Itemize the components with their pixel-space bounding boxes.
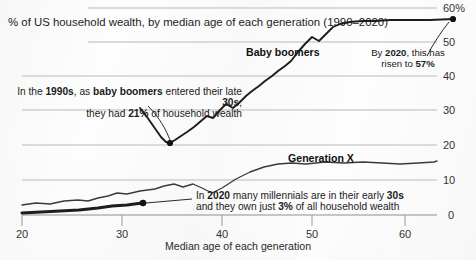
- series-line-millennials: [22, 203, 142, 213]
- annotation-bold: 1990s: [45, 86, 73, 97]
- y-tick-label-10: 10: [443, 174, 455, 188]
- annotation-bold: 30s: [387, 190, 404, 201]
- annotation-text: and they own just: [196, 201, 278, 212]
- annotation-text: entered their late: [163, 86, 242, 97]
- leader-line-millennials: [146, 199, 192, 203]
- marker-millennials-2020: [140, 200, 147, 207]
- y-tick-label-20: 20: [443, 139, 455, 153]
- series-label-baby-boomers: Baby boomers: [246, 46, 320, 58]
- annotation-millennials-2020: In 2020 many millennials are in their ea…: [196, 190, 426, 212]
- annotation-text: they had: [86, 108, 128, 119]
- series-line-baby-boomers: [140, 19, 453, 143]
- chart-canvas: [0, 0, 476, 260]
- annotation-text: , this has: [406, 47, 444, 58]
- annotation-bold: 3%: [278, 201, 293, 212]
- annotation-bold: 2020: [207, 190, 230, 201]
- annotation-bold: 2020: [385, 47, 406, 58]
- y-tick-label-60: 60%: [443, 2, 465, 16]
- annotation-text: In: [196, 190, 207, 201]
- annotation-text: of all household wealth: [293, 201, 399, 212]
- marker-boomers-1990s: [167, 140, 173, 146]
- series-label-generation-x: Generation X: [288, 152, 354, 164]
- x-axis-title: Median age of each generation: [0, 240, 476, 252]
- y-tick-label-30: 30: [443, 104, 455, 118]
- annotation-text: of household wealth: [149, 108, 242, 119]
- annotation-text: In the: [17, 86, 45, 97]
- annotation-bold: 57%: [415, 58, 434, 69]
- annotation-text: risen to: [381, 58, 415, 69]
- y-tick-label-0: 0: [448, 209, 454, 223]
- annotation-text: many millennials are in their early: [230, 190, 387, 201]
- annotation-text: By: [371, 47, 385, 58]
- x-axis: [22, 215, 437, 226]
- annotation-boomers-2020: By 2020, this has risen to 57%: [360, 47, 456, 69]
- y-tick-label-40: 40: [443, 70, 455, 84]
- marker-boomers-2020: [450, 16, 456, 22]
- annotation-bold: baby boomers: [93, 86, 163, 97]
- annotation-text: , as: [74, 86, 93, 97]
- annotation-text: ,: [239, 97, 242, 108]
- annotation-bold: 30s: [222, 97, 239, 108]
- annotation-bold: 21%: [128, 108, 148, 119]
- chart-title: % of US household wealth, by median age …: [8, 15, 388, 29]
- annotation-boomers-1990s: In the 1990s, as baby boomers entered th…: [10, 86, 242, 119]
- chart-page: % of US household wealth, by median age …: [0, 0, 476, 260]
